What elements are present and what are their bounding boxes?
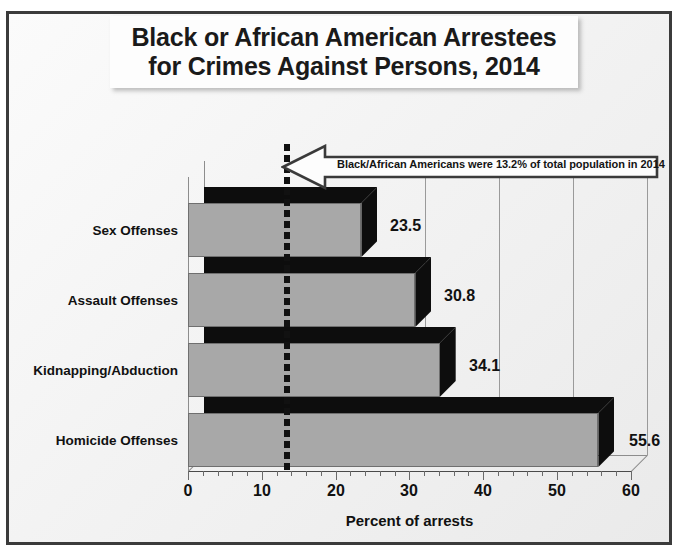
x-tick-label-30: 30 (400, 482, 418, 500)
x-tick-minor (424, 471, 425, 476)
x-tick-label-60: 60 (622, 482, 640, 500)
category-label-kidnapping-abduction: Kidnapping/Abduction (9, 363, 178, 378)
x-tick-label-50: 50 (548, 482, 566, 500)
x-tick-minor (587, 471, 588, 476)
gridline-60 (647, 161, 648, 455)
bar-top-face (204, 257, 431, 273)
x-tick-0 (188, 471, 189, 480)
value-label-homicide-offenses: 55.6 (629, 432, 660, 450)
x-tick-minor (572, 471, 573, 476)
x-tick-minor (395, 471, 396, 476)
category-label-homicide-offenses: Homicide Offenses (28, 433, 178, 448)
x-tick-label-0: 0 (184, 482, 193, 500)
x-tick-minor (350, 471, 351, 476)
bar-front-face (188, 273, 415, 327)
x-tick-minor (601, 471, 602, 476)
bar-top-face (204, 327, 456, 343)
x-tick-minor (468, 471, 469, 476)
x-tick-minor (513, 471, 514, 476)
bar-top-face (204, 397, 614, 413)
plot-area: Sex Offenses 23.5 Assault Offenses 30.8 … (9, 14, 669, 542)
x-tick-minor (542, 471, 543, 476)
x-tick-minor (203, 471, 204, 476)
category-label-assault-offenses: Assault Offenses (28, 293, 178, 308)
annotation-text: Black/African Americans were 13.2% of to… (337, 158, 665, 170)
x-tick-minor (291, 471, 292, 476)
x-tick-label-20: 20 (327, 482, 345, 500)
x-tick-minor (527, 471, 528, 476)
value-label-sex-offenses: 23.5 (390, 217, 421, 235)
x-tick-label-10: 10 (253, 482, 271, 500)
x-tick-minor (380, 471, 381, 476)
x-tick-minor (439, 471, 440, 476)
plot-floor-diagonal-right (631, 455, 648, 472)
x-tick-minor (306, 471, 307, 476)
reference-line-13-2-percent (284, 144, 290, 474)
value-label-assault-offenses: 30.8 (444, 287, 475, 305)
x-tick-minor (321, 471, 322, 476)
x-tick-50 (557, 471, 558, 480)
bar-front-face (188, 413, 598, 467)
x-tick-20 (336, 471, 337, 480)
x-tick-10 (262, 471, 263, 480)
x-axis-title: Percent of arrests (188, 512, 631, 529)
x-tick-40 (483, 471, 484, 480)
x-tick-minor (277, 471, 278, 476)
x-tick-minor (616, 471, 617, 476)
chart-frame: Black or African American Arrestees for … (6, 11, 672, 545)
value-label-kidnapping-abduction: 34.1 (469, 357, 500, 375)
bar-front-face (188, 343, 440, 397)
x-tick-minor (218, 471, 219, 476)
x-tick-minor (454, 471, 455, 476)
x-tick-30 (409, 471, 410, 480)
annotation-callout[interactable]: Black/African Americans were 13.2% of to… (281, 144, 659, 190)
x-tick-minor (498, 471, 499, 476)
bar-front-face (188, 203, 361, 257)
x-tick-60 (631, 471, 632, 480)
category-label-sex-offenses: Sex Offenses (28, 223, 178, 238)
x-tick-minor (247, 471, 248, 476)
x-tick-minor (232, 471, 233, 476)
x-tick-label-40: 40 (474, 482, 492, 500)
x-tick-minor (365, 471, 366, 476)
